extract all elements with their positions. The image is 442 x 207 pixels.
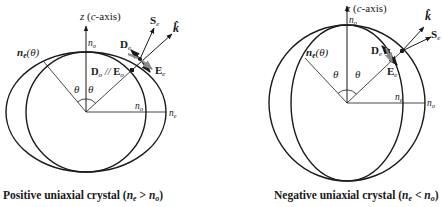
d-e-label: De: [371, 44, 382, 58]
theta-left-label: θ: [74, 83, 80, 95]
d-e-label: De: [120, 38, 131, 52]
n-o-horizontal-label: no: [427, 98, 436, 109]
e-e-label: Ee: [155, 64, 165, 78]
k-hat-label: k̂: [173, 21, 179, 35]
s-e-vector-arrow: [402, 37, 431, 51]
positive-crystal-caption: Positive uniaxial crystal (ne > no): [3, 189, 163, 203]
do-parallel-eo-label: Do // Eo: [91, 66, 124, 79]
point-ordinary: [130, 68, 134, 72]
n-e-theta-label: ne(θ): [17, 46, 40, 60]
theta-arc: [78, 99, 96, 103]
n-e-theta-label: ne(θ): [306, 46, 329, 60]
positive-crystal-panel: z (c-axis) no ne(θ) θ θ Se k̂ De Ee Do /…: [3, 10, 179, 203]
n-o-horizontal-label: no: [135, 101, 144, 112]
k-vector-arrow: [402, 27, 424, 51]
s-e-label: Se: [150, 14, 159, 28]
n-e-horizontal-label: ne: [169, 108, 177, 119]
z-axis-label: z (c-axis): [345, 2, 387, 15]
z-axis-label: z (c-axis): [79, 10, 121, 23]
k-vector-arrow: [132, 34, 172, 70]
n-o-top-label: no: [349, 15, 358, 26]
negative-crystal-panel: z (c-axis) no ne(θ) θ θ k̂ Se De Ee ne n…: [269, 2, 440, 203]
left-radius-line: [44, 62, 86, 112]
negative-crystal-caption: Negative uniaxial crystal (ne < no): [274, 189, 439, 203]
uniaxial-crystal-diagram: z (c-axis) no ne(θ) θ θ Se k̂ De Ee Do /…: [0, 0, 442, 207]
s-e-vector-arrow: [140, 28, 154, 59]
n-e-horizontal-label: ne: [395, 92, 403, 103]
left-radius-line: [305, 58, 347, 103]
theta-right-label: θ: [88, 83, 94, 95]
point-extraordinary: [400, 49, 404, 53]
k-hat-label: k̂: [425, 9, 431, 23]
theta-left-label: θ: [333, 68, 339, 80]
e-e-label: Ee: [387, 65, 397, 79]
theta-right-label: θ: [355, 68, 361, 80]
s-e-label: Se: [431, 28, 440, 42]
point-extraordinary: [138, 57, 142, 61]
n-o-top-label: no: [88, 38, 97, 49]
